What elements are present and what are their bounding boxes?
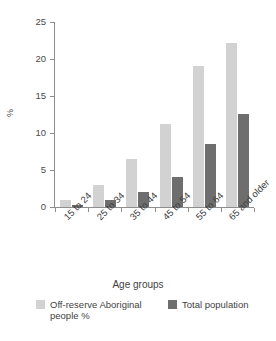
- y-axis-tick-mark: [50, 59, 54, 60]
- chart-legend: Off-reserve Aboriginal people %Total pop…: [36, 299, 268, 333]
- x-axis-title: Age groups: [0, 279, 276, 290]
- y-axis-tick-mark: [50, 22, 54, 23]
- y-axis-tick-mark: [50, 207, 54, 208]
- legend-swatch-icon: [168, 300, 177, 309]
- x-axis-tick-mark: [254, 208, 255, 212]
- x-axis-tick-label: 35 to 44: [128, 191, 159, 222]
- x-axis-tick-label: 25 to 34: [95, 191, 126, 222]
- x-axis-tick-mark: [88, 208, 89, 212]
- y-axis-tick-mark: [50, 170, 54, 171]
- x-axis-tick-label: 15 to 24: [62, 191, 93, 222]
- legend-entry[interactable]: Total population: [168, 299, 249, 310]
- x-axis-tick-mark: [221, 208, 222, 212]
- x-axis-tick-mark: [55, 208, 56, 212]
- legend-swatch-icon: [36, 300, 45, 309]
- x-axis-tick-mark: [121, 208, 122, 212]
- legend-entry[interactable]: Off-reserve Aboriginal people %: [36, 299, 154, 321]
- x-axis-tick-label: 55 to 64: [194, 191, 225, 222]
- legend-label: Off-reserve Aboriginal people %: [50, 299, 154, 321]
- y-axis-tick-mark: [50, 96, 54, 97]
- x-axis-tick-mark: [188, 208, 189, 212]
- x-axis-tick-label: 65 and older: [227, 178, 271, 222]
- legend-label: Total population: [182, 299, 249, 310]
- x-axis-tick-label: 45 to 54: [161, 191, 192, 222]
- x-axis-tick-mark: [155, 208, 156, 212]
- bar-chart-figure: % 0510152025 15 to 2425 to 3435 to 4445 …: [0, 0, 276, 341]
- y-axis-tick-mark: [50, 133, 54, 134]
